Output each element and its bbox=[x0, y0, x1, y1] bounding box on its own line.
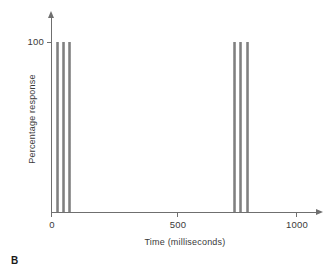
figure-panel-b: 100 0 500 1000 Percentage response Time … bbox=[0, 0, 333, 275]
response-bar bbox=[233, 42, 236, 212]
response-bar bbox=[68, 42, 71, 212]
response-bar bbox=[56, 42, 59, 212]
response-bar bbox=[246, 42, 249, 212]
panel-label: B bbox=[11, 255, 18, 266]
response-bar bbox=[62, 42, 65, 212]
bars-layer bbox=[0, 0, 333, 275]
response-bar bbox=[239, 42, 242, 212]
